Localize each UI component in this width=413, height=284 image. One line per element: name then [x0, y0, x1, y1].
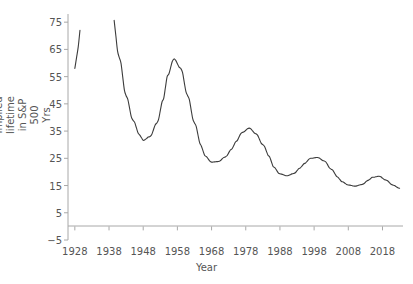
axis-spines	[68, 14, 403, 240]
x-tick-label: 2018	[370, 246, 395, 257]
x-tick-label: 1998	[301, 246, 326, 257]
y-tick-label: −5	[30, 235, 62, 246]
y-axis-ticks	[64, 22, 68, 240]
data-series-line	[75, 20, 400, 188]
x-tick-label: 1978	[233, 246, 258, 257]
y-axis-title: Implied lifetime in S&P 500 Yrs	[8, 0, 38, 230]
y-axis-title-line2: Yrs	[41, 96, 53, 134]
x-tick-label: 1968	[199, 246, 224, 257]
x-tick-label: 1938	[96, 246, 121, 257]
x-tick-label: 2008	[336, 246, 361, 257]
x-tick-label: 1958	[165, 246, 190, 257]
y-axis-title-line1: Implied lifetime in S&P 500	[0, 96, 41, 134]
series-path	[75, 30, 80, 68]
x-tick-label: 1988	[267, 246, 292, 257]
x-axis-title: Year	[196, 262, 217, 273]
x-axis-ticks	[75, 226, 383, 230]
x-tick-label: 1928	[62, 246, 87, 257]
series-path	[114, 20, 399, 188]
chart-container: 756555453525155−5 1928193819481958196819…	[0, 0, 413, 284]
x-tick-label: 1948	[130, 246, 155, 257]
